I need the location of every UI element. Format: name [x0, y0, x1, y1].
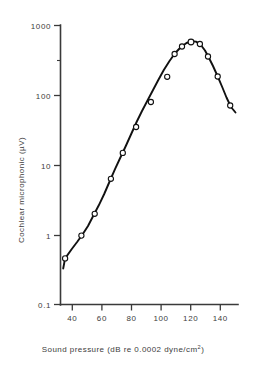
data-point: [165, 74, 170, 79]
x-tick-label-40: 40: [67, 314, 77, 323]
y-tick-label-100: 100: [36, 92, 51, 101]
data-point: [63, 256, 68, 261]
y-axis-title: Cochlear microphonic (µV): [17, 137, 26, 243]
x-tick-label-140: 140: [213, 314, 228, 323]
data-point-markers: [63, 39, 233, 261]
data-point: [205, 54, 210, 59]
x-axis-title-main: Sound pressure (dB re 0.0002 dyne/cm: [42, 345, 198, 354]
y-tick-label-10: 10: [41, 162, 51, 171]
x-tick-label-80: 80: [126, 314, 136, 323]
data-point: [172, 51, 177, 56]
data-point: [120, 150, 125, 155]
chart-figure: 1000 100 10 1 0.1 40 60 80 100 120 140 C…: [0, 0, 253, 372]
data-point: [134, 124, 139, 129]
x-axis-ticks: [72, 305, 220, 311]
data-point: [108, 176, 113, 181]
chart-svg: 1000 100 10 1 0.1 40 60 80 100 120 140 C…: [0, 0, 253, 372]
data-point: [228, 103, 233, 108]
svg-text:Sound pressure (dB re 0.0002 d: Sound pressure (dB re 0.0002 dyne/cm2): [42, 344, 205, 354]
data-point: [197, 41, 202, 46]
data-point: [148, 99, 153, 104]
y-axis-ticks: [54, 26, 61, 305]
data-point: [179, 44, 184, 49]
x-tick-label-60: 60: [97, 314, 107, 323]
x-tick-label-120: 120: [183, 314, 198, 323]
y-tick-label-1000: 1000: [31, 22, 51, 31]
data-point: [188, 39, 194, 45]
x-axis-title-suffix: ): [201, 345, 204, 354]
data-series-curve: [63, 41, 235, 268]
data-point: [79, 233, 84, 238]
x-tick-label-100: 100: [154, 314, 169, 323]
x-axis-title: Sound pressure (dB re 0.0002 dyne/cm2): [42, 344, 205, 354]
y-tick-label-1: 1: [46, 232, 51, 241]
y-tick-label-0.1: 0.1: [38, 301, 51, 310]
data-point: [92, 211, 97, 216]
data-point: [215, 74, 220, 79]
